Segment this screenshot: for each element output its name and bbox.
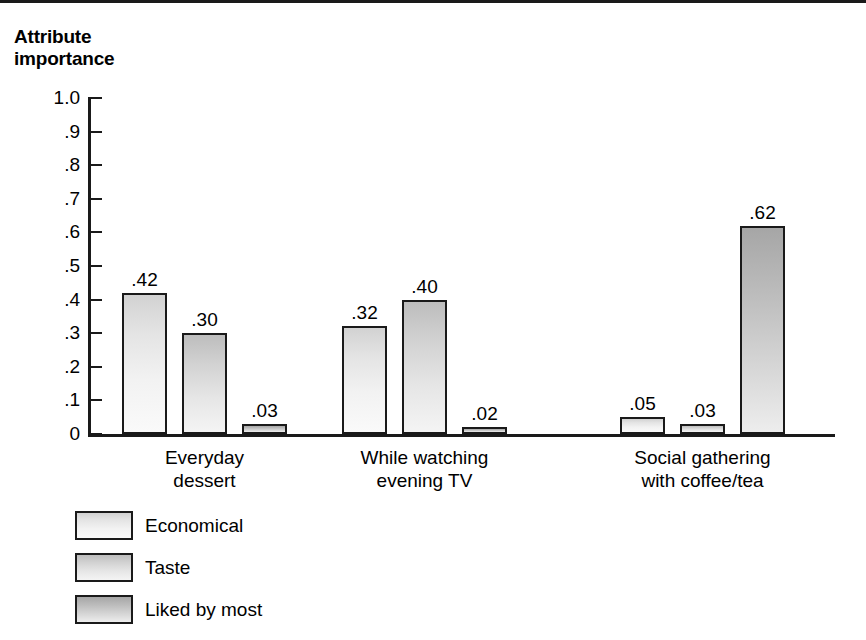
bar-value-label: .03	[668, 401, 737, 420]
y-axis-tick-label: .7	[20, 189, 80, 208]
y-axis-tick	[91, 299, 102, 301]
bar-value-label: .42	[110, 270, 179, 289]
bar	[122, 293, 167, 434]
y-axis-tick	[91, 332, 102, 334]
y-axis-tick-label: 1.0	[20, 88, 80, 107]
legend-label: Economical	[145, 516, 243, 535]
bar-value-label: .40	[390, 277, 459, 296]
y-axis-tick-label: .3	[20, 323, 80, 342]
legend-label: Taste	[145, 558, 190, 577]
y-axis-tick-label: .5	[20, 256, 80, 275]
y-axis-tick	[91, 231, 102, 233]
bar	[342, 326, 387, 434]
legend-swatch	[75, 511, 133, 540]
bar-value-label: .03	[230, 401, 299, 420]
bar	[402, 300, 447, 434]
y-axis-tick-label: .2	[20, 357, 80, 376]
category-label: While watching evening TV	[305, 446, 545, 492]
y-axis-tick	[91, 265, 102, 267]
bar	[680, 424, 725, 434]
y-axis-tick-label: 0	[20, 424, 80, 443]
y-axis-tick-label: .1	[20, 390, 80, 409]
y-axis-tick-label: .4	[20, 290, 80, 309]
y-axis-tick	[91, 399, 102, 401]
y-axis-line	[88, 97, 91, 437]
bar	[462, 427, 507, 434]
legend-label: Liked by most	[145, 600, 262, 619]
y-axis-tick	[91, 366, 102, 368]
x-axis-line	[88, 434, 835, 437]
bar	[182, 333, 227, 434]
bar-value-label: .32	[330, 303, 399, 322]
category-label: Social gathering with coffee/tea	[583, 446, 823, 492]
y-axis-tick	[91, 164, 102, 166]
legend-swatch	[75, 595, 133, 624]
bar	[242, 424, 287, 434]
bar	[740, 226, 785, 434]
y-axis-tick-label: .8	[20, 155, 80, 174]
y-axis-tick	[91, 433, 102, 435]
bar-value-label: .62	[728, 203, 797, 222]
plot-area: 1.0.9.8.7.6.5.4.3.2.10 .42.30.03.32.40.0…	[0, 0, 866, 640]
y-axis-tick	[91, 97, 102, 99]
bar-value-label: .02	[450, 404, 519, 423]
y-axis-tick-label: .9	[20, 122, 80, 141]
bar	[620, 417, 665, 434]
bar-value-label: .30	[170, 310, 239, 329]
y-axis-tick-label: .6	[20, 222, 80, 241]
y-axis-tick	[91, 198, 102, 200]
y-axis-tick	[91, 131, 102, 133]
legend-swatch	[75, 553, 133, 582]
category-label: Everyday dessert	[85, 446, 325, 492]
bar-value-label: .05	[608, 394, 677, 413]
